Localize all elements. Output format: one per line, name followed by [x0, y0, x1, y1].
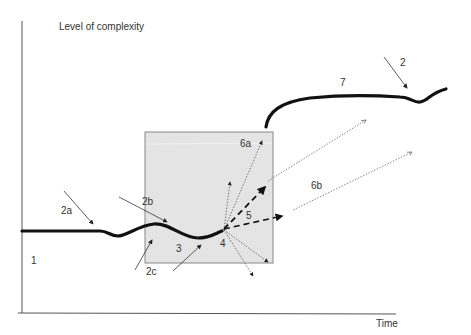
x-axis-label: Time	[376, 319, 398, 329]
label-2: 2	[400, 58, 406, 68]
y-axis-label: Level of complexity	[59, 22, 144, 32]
diagram-graphics	[0, 0, 471, 335]
complexity-curve-new	[266, 89, 446, 127]
label-2a: 2a	[61, 206, 72, 216]
label-6b: 6b	[311, 181, 322, 191]
label-7: 7	[340, 78, 346, 88]
x-axis	[18, 313, 396, 314]
label-3: 3	[176, 244, 182, 254]
label-4: 4	[220, 239, 226, 249]
label-2b: 2b	[142, 197, 153, 207]
dotted-arrow-future-upper	[268, 120, 366, 181]
label-5: 5	[246, 211, 252, 221]
complexity-diagram: Level of complexity Time 1 2 2a 2b 2c 3 …	[0, 0, 471, 335]
label-2c: 2c	[146, 267, 157, 277]
label-1: 1	[31, 256, 37, 266]
label-6a: 6a	[240, 139, 251, 149]
